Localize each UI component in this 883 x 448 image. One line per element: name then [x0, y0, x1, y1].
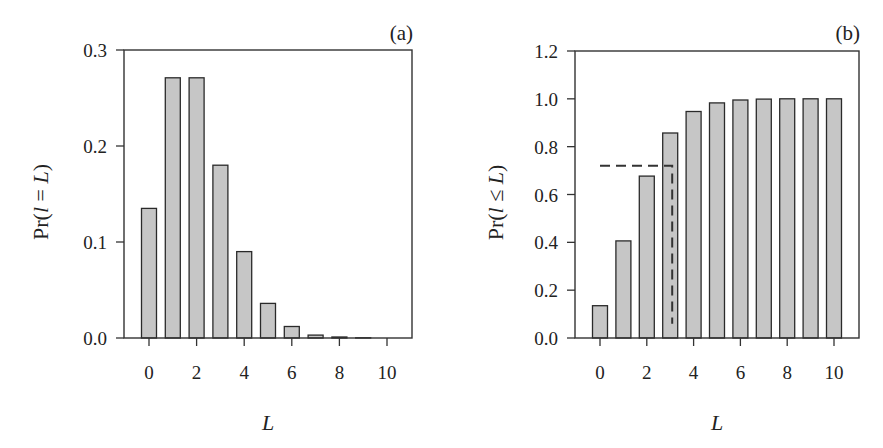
bar-1 [616, 241, 631, 338]
x-tick-label: 8 [335, 362, 345, 383]
panel-a-poisson-pmf: 0.00.10.20.30246810LPr(l = L)(a) [28, 21, 413, 435]
panel-b-poisson-cdf: 0.00.20.40.60.81.01.20246810LPr(l ≤ L)(b… [483, 21, 860, 435]
x-axis-label: L [710, 410, 723, 435]
dashed-threshold-line [600, 166, 672, 324]
y-tick-label: 0.8 [534, 137, 558, 158]
y-tick-label: 0.3 [83, 40, 107, 61]
y-tick-label: 0.1 [83, 232, 107, 253]
y-tick-label: 0.2 [534, 280, 558, 301]
bar-2 [639, 176, 654, 338]
y-tick-label: 1.2 [534, 41, 558, 62]
x-tick-label: 0 [144, 362, 154, 383]
panel-label: (b) [836, 21, 861, 45]
bar-8 [780, 99, 795, 338]
y-tick-label: 0.6 [534, 185, 558, 206]
x-tick-label: 0 [595, 362, 605, 383]
bar-5 [261, 303, 276, 338]
y-tick-label: 0.4 [534, 232, 558, 253]
y-tick-label: 0.0 [534, 328, 558, 349]
bar-2 [189, 78, 204, 338]
bar-6 [733, 100, 748, 338]
x-tick-label: 6 [736, 362, 746, 383]
bar-0 [593, 306, 608, 338]
x-tick-label: 4 [239, 362, 249, 383]
bar-7 [756, 99, 771, 338]
panel-label: (a) [390, 21, 413, 45]
bar-1 [165, 78, 180, 338]
x-tick-label: 10 [378, 362, 397, 383]
x-tick-label: 2 [642, 362, 652, 383]
y-axis-label: Pr(l = L) [28, 164, 53, 240]
bar-3 [213, 165, 228, 338]
y-tick-label: 0.2 [83, 136, 107, 157]
y-tick-label: 1.0 [534, 89, 558, 110]
x-tick-label: 6 [287, 362, 297, 383]
bar-3 [663, 133, 678, 338]
x-tick-label: 10 [825, 362, 844, 383]
bar-6 [284, 327, 299, 339]
bar-0 [142, 208, 157, 338]
bar-4 [686, 112, 701, 339]
y-axis-label: Pr(l ≤ L) [483, 165, 508, 241]
x-tick-label: 2 [192, 362, 202, 383]
figure: 0.00.10.20.30246810LPr(l = L)(a) 0.00.20… [0, 0, 883, 448]
bar-9 [803, 99, 818, 338]
x-tick-label: 4 [689, 362, 699, 383]
bar-5 [710, 103, 725, 338]
x-tick-label: 8 [782, 362, 792, 383]
bar-4 [237, 252, 252, 338]
bar-10 [827, 99, 842, 338]
y-tick-label: 0.0 [83, 328, 107, 349]
x-axis-label: L [261, 410, 274, 435]
